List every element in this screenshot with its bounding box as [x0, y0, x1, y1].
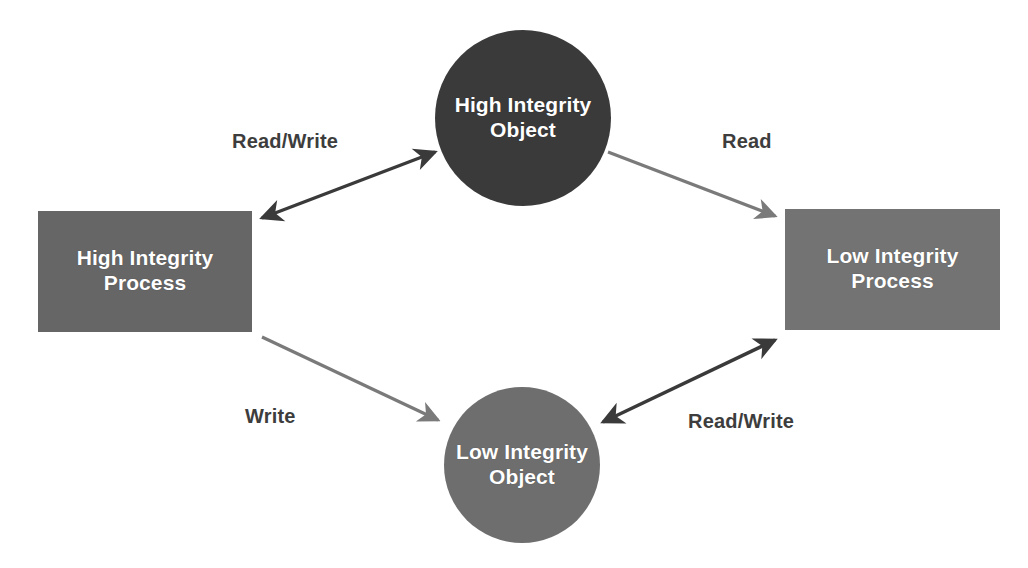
- edge-high-integrity-process-to-high-integrity-object: [262, 152, 435, 218]
- node-low-integrity-object-shape[interactable]: [444, 387, 600, 543]
- node-high-integrity-process-shape[interactable]: [38, 211, 252, 332]
- diagram-graphics: [0, 0, 1028, 568]
- node-low-integrity-process-shape[interactable]: [785, 209, 1000, 330]
- node-high-integrity-object-shape[interactable]: [435, 30, 611, 206]
- diagram-canvas: High Integrity Object High Integrity Pro…: [0, 0, 1028, 568]
- edge-high-integrity-object-to-low-integrity-process: [608, 152, 775, 216]
- edge-label-read: Read: [722, 130, 772, 153]
- edge-label-read-write-bottom: Read/Write: [688, 410, 794, 433]
- edge-label-read-write-top: Read/Write: [232, 130, 338, 153]
- edge-label-write: Write: [245, 405, 296, 428]
